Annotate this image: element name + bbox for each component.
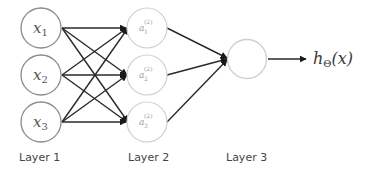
neural-network-diagram: x1 x2 x3 a (2) 1 a (2) 2 a (2) 3 (0, 0, 372, 175)
layer-1-label: Layer 1 (19, 151, 60, 164)
edges-layer1-to-layer2 (62, 28, 128, 122)
svg-text:(2): (2) (144, 18, 153, 25)
node-a3: a (2) 3 (127, 102, 167, 142)
edge-a3-out (167, 60, 227, 122)
edge-a2-out (167, 59, 227, 75)
layer-2-label: Layer 2 (128, 151, 169, 164)
node-a2: a (2) 2 (127, 55, 167, 95)
layer-2-nodes: a (2) 1 a (2) 2 a (2) 3 (127, 8, 167, 142)
svg-text:(2): (2) (144, 65, 153, 72)
node-x2: x2 (21, 55, 61, 95)
layer-3-label: Layer 3 (226, 151, 267, 164)
node-x3: x3 (21, 102, 61, 142)
edges-layer2-to-layer3 (167, 28, 227, 122)
node-output (228, 40, 267, 79)
node-a1: a (2) 1 (127, 8, 167, 48)
layer-1-nodes: x1 x2 x3 (21, 8, 61, 142)
svg-text:2: 2 (144, 75, 148, 82)
svg-text:(2): (2) (144, 112, 153, 119)
node-x1: x1 (21, 8, 61, 48)
edge-a1-out (167, 28, 227, 58)
output-label: hΘ(x) (313, 49, 353, 69)
svg-text:3: 3 (144, 122, 148, 129)
layer-3-nodes (228, 40, 267, 79)
svg-text:1: 1 (144, 28, 148, 35)
